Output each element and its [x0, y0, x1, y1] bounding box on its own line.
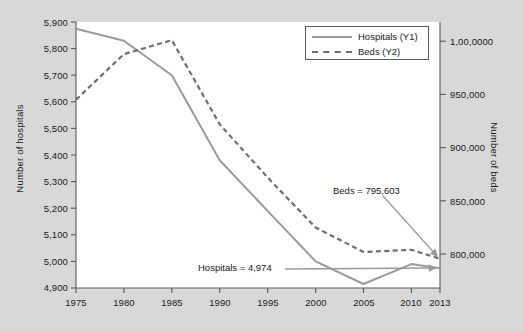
y-left-tick-5200: 5,200 — [24, 203, 68, 214]
x-tick-1995: 1995 — [248, 297, 288, 308]
y-left-tick-5700: 5,700 — [24, 70, 68, 81]
y-right-tick-800000: 800,000 — [450, 249, 510, 260]
legend-item-hospitals: Hospitals (Y1) — [306, 29, 428, 45]
x-tick-2013: 2013 — [420, 297, 460, 308]
annotation-beds-endpoint: Beds = 795,603 — [333, 185, 400, 196]
series-line-hospitals — [76, 29, 440, 284]
x-tick-1980: 1980 — [104, 297, 144, 308]
chart-svg — [0, 0, 523, 331]
x-tick-1990: 1990 — [200, 297, 240, 308]
legend-label-hospitals: Hospitals (Y1) — [358, 31, 418, 42]
chart-legend: Hospitals (Y1) Beds (Y2) — [305, 26, 429, 60]
y-axis-left-ticks — [71, 22, 76, 288]
x-tick-2005: 2005 — [344, 297, 384, 308]
x-tick-1985: 1985 — [152, 297, 192, 308]
y-left-tick-5300: 5,300 — [24, 176, 68, 187]
y-right-tick-1000000: 1,00,0000 — [450, 36, 510, 47]
figure-container: 5,900 5,800 5,700 5,600 5,500 5,400 5,30… — [0, 0, 523, 331]
legend-item-beds: Beds (Y2) — [306, 44, 428, 60]
y-axis-left-title: Number of hospitals — [14, 89, 25, 209]
x-axis-ticks — [76, 288, 440, 293]
y-left-tick-5000: 5,000 — [24, 256, 68, 267]
x-tick-1975: 1975 — [56, 297, 96, 308]
annotation-leader-hospitals — [285, 268, 435, 269]
y-left-tick-5800: 5,800 — [24, 43, 68, 54]
y-right-tick-950000: 950,000 — [450, 89, 510, 100]
y-left-tick-5400: 5,400 — [24, 150, 68, 161]
y-left-tick-4900: 4,900 — [24, 282, 68, 293]
annotation-leader-beds — [383, 196, 437, 256]
y-left-tick-5100: 5,100 — [24, 229, 68, 240]
annotation-hospitals-endpoint: Hospitals = 4,974 — [198, 262, 272, 273]
y-left-tick-5600: 5,600 — [24, 96, 68, 107]
legend-swatch-beds-icon — [312, 51, 352, 53]
y-left-tick-5900: 5,900 — [24, 17, 68, 28]
series-line-beds — [76, 40, 440, 259]
x-tick-2000: 2000 — [296, 297, 336, 308]
y-left-tick-5500: 5,500 — [24, 123, 68, 134]
y-right-tick-900000: 900,000 — [450, 142, 510, 153]
legend-label-beds: Beds (Y2) — [358, 46, 400, 57]
y-right-tick-850000: 850,000 — [450, 196, 510, 207]
y-axis-right-title: Number of beds — [489, 98, 500, 218]
y-axis-right-ticks — [440, 41, 446, 254]
legend-swatch-hospitals-icon — [312, 36, 352, 38]
